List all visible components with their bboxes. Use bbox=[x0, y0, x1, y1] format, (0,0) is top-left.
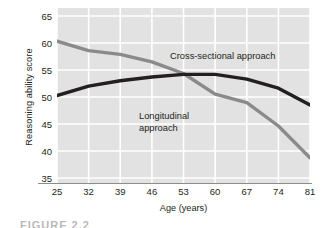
x-axis-tick-label: 53 bbox=[172, 186, 196, 197]
x-axis-tick-label: 46 bbox=[140, 186, 164, 197]
chart-plot-svg bbox=[57, 8, 310, 183]
plot-area: Cross-sectional approach Longitudinal ap… bbox=[57, 8, 310, 183]
figure-container: Reasoning ability score 65 60 55 50 45 4… bbox=[0, 0, 322, 228]
x-axis-tick-label: 32 bbox=[77, 186, 101, 197]
figure-caption: FIGURE 2.2 bbox=[20, 219, 90, 228]
x-axis-line bbox=[38, 183, 312, 184]
x-axis-title: Age (years) bbox=[57, 203, 310, 213]
x-axis-tick-label: 74 bbox=[266, 186, 290, 197]
grid-lines bbox=[57, 8, 310, 183]
x-axis-tick-label: 81 bbox=[298, 186, 322, 197]
y-axis-tick-label: 60 bbox=[30, 38, 52, 49]
series-annotation-longitudinal-text: Longitudinal approach bbox=[139, 111, 189, 133]
x-axis-tick-label: 67 bbox=[235, 186, 259, 197]
y-axis-tick-label: 55 bbox=[30, 65, 52, 76]
y-axis-tick-label: 40 bbox=[30, 146, 52, 157]
y-axis-tick-label: 65 bbox=[30, 11, 52, 22]
x-axis-tick-label: 25 bbox=[45, 186, 69, 197]
y-axis-tick-label: 45 bbox=[30, 119, 52, 130]
series-annotation-longitudinal: Longitudinal approach bbox=[139, 111, 189, 134]
x-axis-tick-label: 39 bbox=[108, 186, 132, 197]
series-annotation-cross-sectional: Cross-sectional approach bbox=[170, 51, 275, 63]
y-axis-tick-label: 50 bbox=[30, 92, 52, 103]
x-axis-tick-label: 60 bbox=[203, 186, 227, 197]
